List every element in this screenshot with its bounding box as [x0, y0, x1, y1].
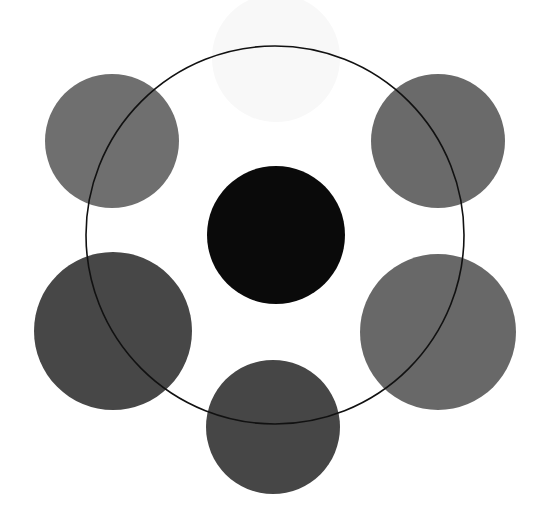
- bottom-circle: [206, 360, 340, 494]
- top-faint-circle: [212, 0, 340, 122]
- top-right-circle: [371, 74, 505, 208]
- top-left-circle: [45, 74, 179, 208]
- circle-diagram: [0, 0, 544, 522]
- center-circle: [207, 166, 345, 304]
- circles-layer: [34, 0, 516, 494]
- diagram-canvas: [0, 0, 544, 522]
